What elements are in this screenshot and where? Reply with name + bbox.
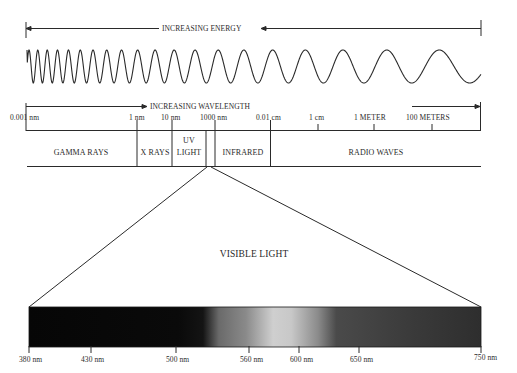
band-x-rays: X RAYS xyxy=(141,149,170,157)
visible-tick-650: 650 nm xyxy=(350,356,373,364)
band-infrared: INFRARED xyxy=(223,149,264,157)
tick-label-1cm: 1 cm xyxy=(309,114,324,122)
tick-label-001cm: 0.01 cm xyxy=(256,114,281,122)
band-gamma-rays: GAMMA RAYS xyxy=(54,149,109,157)
visible-tick-380: 380 nm xyxy=(19,356,42,364)
wave-graphic xyxy=(27,50,481,83)
energy-axis-label: INCREASING ENERGY xyxy=(162,25,241,33)
wavelength-ruler xyxy=(26,102,481,167)
band-uv-line2: LIGHT xyxy=(177,149,202,157)
band-radio-waves: RADIO WAVES xyxy=(349,149,404,157)
visible-tick-600: 600 nm xyxy=(290,356,313,364)
tick-label-1000nm: 1000 nm xyxy=(200,114,227,122)
visible-zoom-triangle xyxy=(29,167,481,307)
visible-light-title: VISIBLE LIGHT xyxy=(220,250,289,260)
visible-tick-560: 560 nm xyxy=(240,356,263,364)
tick-label-10nm: 10 nm xyxy=(161,114,180,122)
band-uv-line1: UV xyxy=(183,137,195,145)
visible-tick-500: 500 nm xyxy=(166,356,189,364)
visible-spectrum-bar xyxy=(29,307,481,347)
wavelength-axis-label: INCREASING WAVELENGTH xyxy=(150,103,250,111)
tick-label-100meters: 100 METERS xyxy=(406,114,450,122)
diagram-lines xyxy=(0,0,517,373)
energy-axis xyxy=(26,20,481,38)
visible-tick-750: 750 nm xyxy=(474,354,497,362)
electromagnetic-spectrum-diagram: INCREASING ENERGY INCREASING WAVELENGTH … xyxy=(0,0,517,373)
tick-label-1meter: 1 METER xyxy=(354,114,386,122)
tick-label-0001nm: 0.001 nm xyxy=(10,114,39,122)
visible-tick-430: 430 nm xyxy=(81,356,104,364)
tick-label-1nm: 1 nm xyxy=(129,114,145,122)
